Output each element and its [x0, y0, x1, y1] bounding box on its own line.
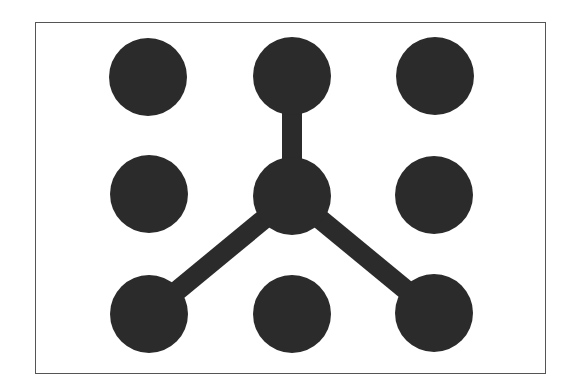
pattern-dot-r1c1 — [109, 38, 187, 116]
pattern-dot-r3c2 — [253, 275, 331, 353]
pattern-dot-r2c2 — [253, 157, 331, 235]
pattern-dot-r2c1 — [110, 155, 188, 233]
pattern-dot-r3c1 — [110, 275, 188, 353]
pattern-dot-r1c2 — [253, 37, 331, 115]
pattern-lock-diagram — [0, 0, 567, 379]
pattern-dot-r2c3 — [395, 156, 473, 234]
pattern-dot-r3c3 — [395, 274, 473, 352]
pattern-dot-r1c3 — [396, 37, 474, 115]
